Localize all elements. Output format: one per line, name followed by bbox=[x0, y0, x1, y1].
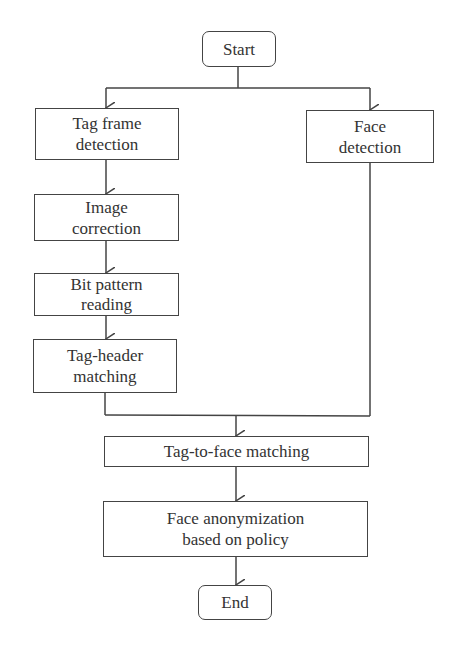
bit-pattern-reading-label: Bit pattern reading bbox=[61, 275, 152, 315]
end-node: End bbox=[198, 585, 272, 620]
tag-header-matching-node: Tag-header matching bbox=[33, 339, 177, 393]
face-anonymization-node: Face anonymization based on policy bbox=[103, 501, 368, 557]
face-detection-label: Face detection bbox=[327, 116, 413, 158]
face-detection-node: Face detection bbox=[306, 110, 434, 163]
image-correction-node: Image correction bbox=[34, 194, 179, 241]
tag-header-matching-label: Tag-header matching bbox=[60, 345, 150, 387]
tag-to-face-matching-label: Tag-to-face matching bbox=[164, 441, 310, 462]
tag-frame-detection-node: Tag frame detection bbox=[35, 108, 179, 160]
start-label: Start bbox=[223, 39, 255, 60]
tag-frame-detection-label: Tag frame detection bbox=[60, 113, 154, 155]
bit-pattern-reading-node: Bit pattern reading bbox=[34, 273, 179, 316]
image-correction-label: Image correction bbox=[65, 197, 148, 239]
end-label: End bbox=[221, 592, 248, 613]
face-anonymization-label: Face anonymization based on policy bbox=[154, 508, 317, 550]
start-node: Start bbox=[202, 31, 276, 67]
tag-to-face-matching-node: Tag-to-face matching bbox=[104, 436, 369, 467]
